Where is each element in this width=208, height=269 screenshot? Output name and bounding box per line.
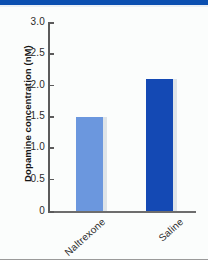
bar-shadow-naltrexone	[103, 117, 107, 211]
y-tick-0-5	[48, 179, 54, 181]
y-tick-3-0	[48, 22, 54, 24]
y-tick-1-5	[48, 116, 54, 118]
bar-chart-plot: 3.0 2.5 2.0 1.5 1.0 0.5 0 Dopamine conce…	[0, 0, 208, 269]
x-axis-line	[48, 211, 196, 213]
y-tick-2-5	[48, 53, 54, 55]
figure-panel: 3.0 2.5 2.0 1.5 1.0 0.5 0 Dopamine conce…	[0, 0, 208, 269]
bar-shadow-saline	[173, 79, 177, 211]
bar-saline[interactable]	[146, 79, 173, 211]
bar-naltrexone[interactable]	[76, 117, 103, 211]
y-tick-2-0	[48, 85, 54, 87]
y-axis-title: Dopamine concentration (nM)	[22, 19, 33, 209]
y-tick-0	[48, 211, 54, 213]
y-tick-1-0	[48, 147, 54, 149]
bottom-margin-area	[0, 260, 208, 269]
